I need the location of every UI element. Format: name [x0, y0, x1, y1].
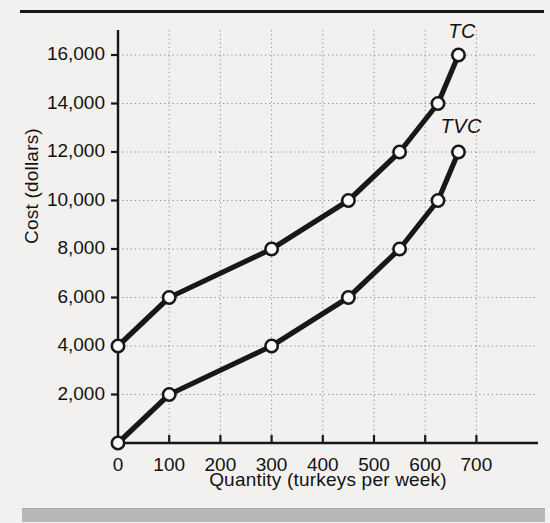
data-point-marker	[342, 194, 354, 206]
data-point-marker	[112, 437, 124, 449]
data-point-marker	[265, 340, 277, 352]
data-point-marker	[112, 340, 124, 352]
axes	[111, 30, 538, 444]
data-point-marker	[163, 388, 175, 400]
data-point-marker	[393, 243, 405, 255]
data-point-marker	[342, 291, 354, 303]
data-point-marker	[432, 194, 444, 206]
data-point-marker	[163, 291, 175, 303]
data-point-marker	[452, 146, 464, 158]
data-point-marker	[432, 97, 444, 109]
data-point-marker	[452, 49, 464, 61]
bottom-accent-bar	[22, 508, 545, 522]
gridlines	[118, 30, 538, 443]
data-point-marker	[265, 243, 277, 255]
plot-area	[0, 0, 550, 523]
data-point-marker	[393, 146, 405, 158]
cost-curves-figure: Cost (dollars) Quantity (turkeys per wee…	[0, 0, 550, 523]
